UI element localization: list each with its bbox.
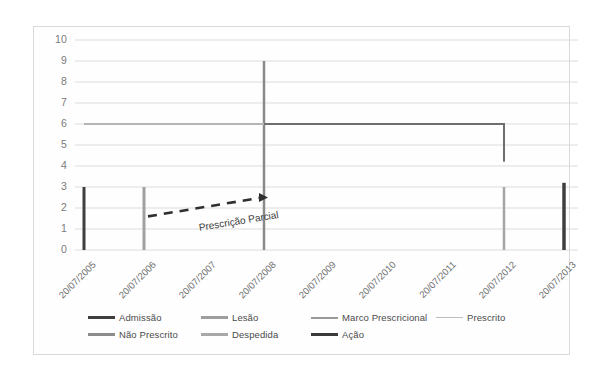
legend-item-lesão[interactable]: Lesão [201, 312, 258, 323]
legend-item-prescrito[interactable]: Prescrito [436, 312, 505, 323]
legend-label: Admissão [119, 312, 162, 323]
legend-row: AdmissãoLesãoMarco PrescricionalPrescrit… [46, 312, 546, 329]
y-axis-tick-0: 0 [45, 243, 67, 255]
y-axis-tick-10: 10 [45, 33, 67, 45]
y-axis-tick-9: 9 [45, 54, 67, 66]
legend-swatch-icon [201, 333, 228, 335]
y-axis-tick-6: 6 [45, 117, 67, 129]
chart-legend: AdmissãoLesãoMarco PrescricionalPrescrit… [46, 312, 546, 346]
legend-label: Despedida [232, 329, 278, 340]
legend-label: Prescrito [467, 312, 505, 323]
legend-item-ação[interactable]: Ação [311, 329, 364, 340]
y-axis-tick-3: 3 [45, 180, 67, 192]
legend-item-despedida[interactable]: Despedida [201, 329, 278, 340]
legend-row: Não PrescritoDespedidaAção [46, 329, 546, 346]
legend-item-admissão[interactable]: Admissão [88, 312, 162, 323]
chart-frame [33, 26, 570, 355]
legend-label: Marco Prescricional [342, 312, 427, 323]
y-axis-tick-7: 7 [45, 96, 67, 108]
y-axis-tick-1: 1 [45, 222, 67, 234]
legend-swatch-icon [88, 333, 115, 335]
legend-swatch-icon [311, 333, 338, 336]
legend-label: Não Prescrito [119, 329, 178, 340]
legend-swatch-icon [88, 316, 115, 319]
y-axis-tick-4: 4 [45, 159, 67, 171]
legend-label: Ação [342, 329, 364, 340]
legend-swatch-icon [311, 317, 338, 319]
y-axis-tick-5: 5 [45, 138, 67, 150]
legend-swatch-icon [436, 317, 463, 319]
y-axis-tick-8: 8 [45, 75, 67, 87]
legend-label: Lesão [232, 312, 258, 323]
legend-swatch-icon [201, 316, 228, 319]
y-axis-tick-2: 2 [45, 201, 67, 213]
legend-item-marco-prescricional[interactable]: Marco Prescricional [311, 312, 427, 323]
legend-item-não-prescrito[interactable]: Não Prescrito [88, 329, 178, 340]
